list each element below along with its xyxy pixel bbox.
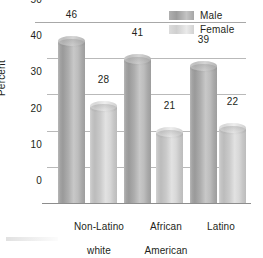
bar-cap-shade xyxy=(58,39,85,48)
bar-cap-shade xyxy=(190,64,217,73)
legend: Male Female xyxy=(169,10,235,38)
bar-african-american-male xyxy=(124,54,151,203)
bar-body xyxy=(90,106,117,203)
y-axis-tick-labels: 50 40 30 20 10 0 xyxy=(18,0,42,203)
bar-nonlatino-white-female xyxy=(90,101,117,203)
x-label-line1: Latino xyxy=(186,221,256,233)
bar-body xyxy=(190,66,217,203)
plot-area: 46 28 41 21 39 xyxy=(47,22,246,203)
y-tick-10: 10 xyxy=(30,140,42,150)
y-tick-40: 40 xyxy=(30,31,42,41)
y-axis-title: Percent xyxy=(0,60,7,96)
female-swatch-icon xyxy=(169,25,194,34)
bar-body xyxy=(219,128,246,203)
male-swatch-icon xyxy=(169,11,194,20)
y-tick-20: 20 xyxy=(30,104,42,114)
bar-latino-male xyxy=(190,61,217,203)
bar-value-african-american-female: 21 xyxy=(156,101,183,111)
bar-value-latino-female: 22 xyxy=(219,97,246,107)
axis-baseline xyxy=(42,203,251,204)
bar-cap-shade xyxy=(90,104,117,113)
bar-body xyxy=(124,59,151,203)
scan-artifact xyxy=(6,237,58,241)
bar-latino-female xyxy=(219,123,246,203)
bar-body xyxy=(58,41,85,203)
bar-nonlatino-white-male xyxy=(58,36,85,203)
legend-item-female: Female xyxy=(169,24,235,35)
bar-cap-shade xyxy=(156,130,183,139)
y-tick-50: 50 xyxy=(30,0,42,5)
legend-label-male: Male xyxy=(200,11,222,21)
y-tick-30: 30 xyxy=(30,67,42,77)
bar-cap-shade xyxy=(124,57,151,66)
x-label-line2: American xyxy=(124,245,208,257)
bar-value-african-american-male: 41 xyxy=(124,28,151,38)
bar-body xyxy=(156,132,183,203)
legend-item-male: Male xyxy=(169,10,235,21)
bar-value-nonlatino-white-male: 46 xyxy=(58,10,85,20)
y-tick-0: 0 xyxy=(36,176,42,186)
bar-cap-shade xyxy=(219,126,246,135)
x-label-latino: Latino xyxy=(186,209,256,245)
bar-african-american-female xyxy=(156,127,183,203)
bar-value-nonlatino-white-female: 28 xyxy=(90,75,117,85)
legend-label-female: Female xyxy=(200,25,235,35)
